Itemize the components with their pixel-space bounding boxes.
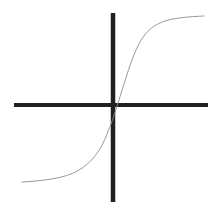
plot-canvas — [0, 0, 223, 208]
plot-svg — [0, 0, 223, 208]
